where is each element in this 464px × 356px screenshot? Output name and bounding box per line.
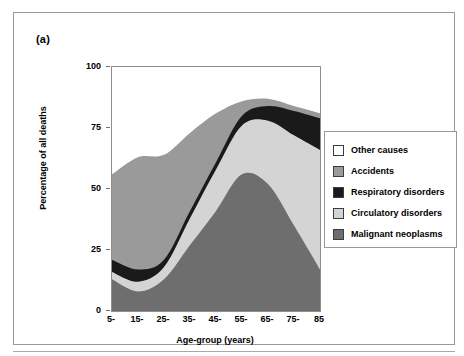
panel-label: (a): [36, 33, 50, 45]
x-tick-label: 25-: [150, 315, 176, 324]
y-tick-mark: [106, 188, 110, 189]
x-tick-label: 5-: [98, 315, 124, 324]
stacked-area-chart: [112, 67, 320, 311]
legend-item: Accidents: [333, 165, 394, 177]
x-tick-label: 65-: [254, 315, 280, 324]
legend-swatch-icon: [333, 187, 344, 198]
x-axis-title: Age-group (years): [111, 335, 319, 345]
legend-swatch-icon: [333, 145, 344, 156]
x-tick-label: 75-: [280, 315, 306, 324]
legend-label: Circulatory disorders: [351, 209, 442, 218]
legend-label: Respiratory disorders: [351, 188, 445, 197]
chart-legend: Other causesAccidentsRespiratory disorde…: [324, 131, 457, 248]
y-tick-mark: [106, 249, 110, 250]
y-axis-title: Percentage of all deaths: [38, 73, 48, 243]
legend-swatch-icon: [333, 208, 344, 219]
legend-swatch-icon: [333, 166, 344, 177]
y-tick-label: 50: [67, 184, 101, 193]
y-tick-mark: [106, 310, 110, 311]
x-tick-label: 85: [306, 315, 332, 324]
y-tick-label: 100: [67, 62, 101, 71]
y-tick-mark: [106, 66, 110, 67]
legend-item: Respiratory disorders: [333, 186, 445, 198]
legend-item: Other causes: [333, 144, 408, 156]
y-tick-label: 0: [67, 306, 101, 315]
legend-swatch-icon: [333, 229, 344, 240]
legend-item: Malignant neoplasms: [333, 228, 443, 240]
x-tick-label: 15-: [124, 315, 150, 324]
x-tick-label: 35-: [176, 315, 202, 324]
y-tick-label: 75: [67, 123, 101, 132]
legend-label: Other causes: [351, 146, 408, 155]
figure-frame: (a) 0255075100 Percentage of all deaths …: [13, 12, 455, 345]
bottom-divider: [13, 351, 455, 352]
x-tick-label: 45-: [202, 315, 228, 324]
legend-label: Malignant neoplasms: [351, 230, 443, 239]
y-tick-mark: [106, 127, 110, 128]
x-tick-label: 55-: [228, 315, 254, 324]
legend-label: Accidents: [351, 167, 394, 176]
legend-item: Circulatory disorders: [333, 207, 442, 219]
y-tick-label: 25: [67, 245, 101, 254]
